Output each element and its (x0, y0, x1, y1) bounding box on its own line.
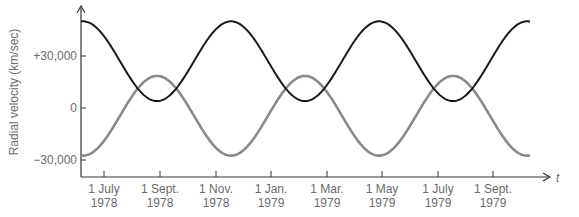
y-axis-label: Radial velocity (km/sec) (7, 29, 21, 156)
receding-component-line (81, 21, 530, 101)
x-tick-label: 1978 (91, 196, 118, 210)
x-tick-label: 1 Sept. (141, 182, 179, 196)
y-ticks: +30,0000−30,000 (33, 49, 86, 167)
x-axis (81, 173, 550, 181)
x-tick-label: 1 Nov. (199, 182, 233, 196)
x-tick-label: 1 Sept. (474, 182, 512, 196)
x-tick-label: 1979 (369, 196, 396, 210)
y-tick-label: 0 (70, 101, 77, 115)
x-tick-label: 1 Mar. (310, 182, 343, 196)
x-tick-label: 1978 (203, 196, 230, 210)
x-tick-label: 1 May (366, 182, 399, 196)
x-tick-label: 1979 (258, 196, 285, 210)
x-tick-label: 1 July (422, 182, 453, 196)
x-axis-label: t (556, 171, 560, 185)
x-tick-label: 1 July (88, 182, 119, 196)
x-tick-label: 1978 (147, 196, 174, 210)
y-axis (77, 6, 85, 177)
x-tick-label: 1979 (480, 196, 507, 210)
x-tick-label: 1979 (425, 196, 452, 210)
y-tick-label: +30,000 (33, 49, 77, 63)
y-tick-label: −30,000 (33, 153, 77, 167)
radial-velocity-chart: +30,0000−30,000 1 July19781 Sept.19781 N… (0, 0, 579, 217)
x-tick-label: 1979 (314, 196, 341, 210)
x-tick-label: 1 Jan. (255, 182, 288, 196)
approaching-component-line (81, 76, 530, 156)
